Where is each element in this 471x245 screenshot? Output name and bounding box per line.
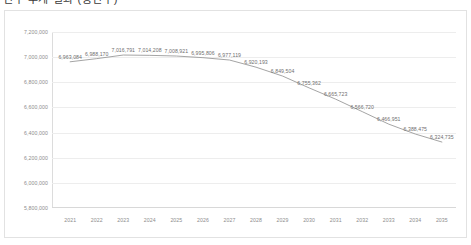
data-label: 6,388,475 (404, 126, 428, 132)
x-axis-tick-label: 2030 (303, 217, 315, 223)
x-axis-tick-label: 2023 (117, 217, 129, 223)
y-axis-tick-label: 7,000,000 (24, 54, 48, 60)
y-axis-tick-label: 5,800,000 (24, 205, 48, 211)
series-line (70, 55, 442, 142)
x-axis-tick-label: 2028 (250, 217, 262, 223)
page-title: 인구 추계 결과 (총인구) (0, 0, 471, 6)
data-label: 6,995,806 (191, 50, 215, 56)
data-label: 7,014,208 (138, 47, 162, 53)
y-axis-tick-label: 6,000,000 (24, 180, 48, 186)
x-axis-tick-label: 2033 (383, 217, 395, 223)
data-label: 6,755,362 (297, 80, 321, 86)
data-label: 7,016,791 (112, 47, 136, 53)
x-axis-tick-label: 2029 (277, 217, 289, 223)
data-label: 6,920,193 (244, 59, 268, 65)
y-axis-tick-label: 6,800,000 (24, 79, 48, 85)
data-label: 6,324,735 (430, 134, 454, 140)
data-label: 6,963,084 (58, 54, 82, 60)
data-label: 7,008,921 (165, 48, 189, 54)
chart-page: 인구 추계 결과 (총인구) 7,200,0007,000,0006,800,0… (0, 0, 471, 245)
x-axis-tick-label: 2035 (436, 217, 448, 223)
data-label: 6,566,720 (350, 104, 374, 110)
x-axis-tick-label: 2022 (91, 217, 103, 223)
data-label: 6,849,504 (271, 68, 295, 74)
y-axis-tick-label: 7,200,000 (24, 29, 48, 35)
data-label: 6,988,170 (85, 51, 109, 57)
data-label: 6,977,119 (218, 52, 241, 58)
x-axis-tick-label: 2031 (330, 217, 342, 223)
x-axis-tick-label: 2034 (409, 217, 421, 223)
plot-area: 7,200,0007,000,0006,800,0006,600,0006,40… (52, 32, 456, 208)
x-axis-tick-label: 2025 (170, 217, 182, 223)
y-axis-tick-label: 6,200,000 (24, 155, 48, 161)
x-axis-tick-label: 2027 (223, 217, 235, 223)
x-axis-tick-label: 2021 (64, 217, 76, 223)
y-axis-tick-label: 6,600,000 (24, 104, 48, 110)
data-label: 6,466,951 (377, 116, 401, 122)
chart-panel: 7,200,0007,000,0006,800,0006,600,0006,40… (4, 10, 467, 238)
data-label: 6,665,723 (324, 91, 348, 97)
x-axis-tick-label: 2024 (144, 217, 156, 223)
x-axis-tick-label: 2032 (356, 217, 368, 223)
page-title-strip: 인구 추계 결과 (총인구) (0, 0, 471, 7)
y-axis-tick-label: 6,400,000 (24, 130, 48, 136)
x-axis-tick-label: 2026 (197, 217, 209, 223)
